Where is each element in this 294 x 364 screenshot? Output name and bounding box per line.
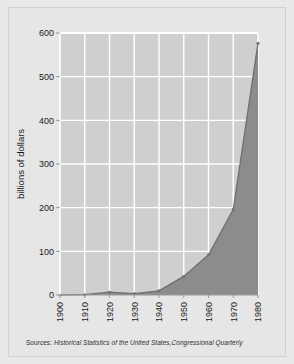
svg-text:1960: 1960	[204, 302, 214, 322]
svg-text:300: 300	[39, 159, 54, 169]
chart-figure: 0100200300400500600 19001910192019301940…	[0, 0, 294, 364]
y-axis-title: billions of dollars	[15, 129, 26, 199]
svg-text:1920: 1920	[105, 302, 115, 322]
source-note: Sources: Historical Statistics of the Un…	[26, 339, 243, 346]
svg-text:1900: 1900	[55, 302, 65, 322]
svg-text:1940: 1940	[154, 302, 164, 322]
x-tick-labels: 190019101920193019401950196019701980	[55, 302, 263, 322]
source-note-text: Historical Statistics of the United Stat…	[52, 339, 243, 346]
svg-text:1930: 1930	[130, 302, 140, 322]
svg-text:100: 100	[39, 247, 54, 257]
svg-text:1950: 1950	[179, 302, 189, 322]
svg-text:1970: 1970	[229, 302, 239, 322]
svg-text:500: 500	[39, 72, 54, 82]
svg-text:0: 0	[49, 290, 54, 300]
svg-text:600: 600	[39, 28, 54, 38]
area-chart: 0100200300400500600 19001910192019301940…	[0, 0, 294, 364]
svg-text:200: 200	[39, 203, 54, 213]
plot-container: 0100200300400500600 19001910192019301940…	[0, 0, 294, 364]
source-note-prefix: Sources:	[26, 339, 52, 346]
svg-text:1980: 1980	[253, 302, 263, 322]
y-tick-labels: 0100200300400500600	[39, 28, 60, 300]
svg-text:1910: 1910	[80, 302, 90, 322]
svg-text:400: 400	[39, 116, 54, 126]
